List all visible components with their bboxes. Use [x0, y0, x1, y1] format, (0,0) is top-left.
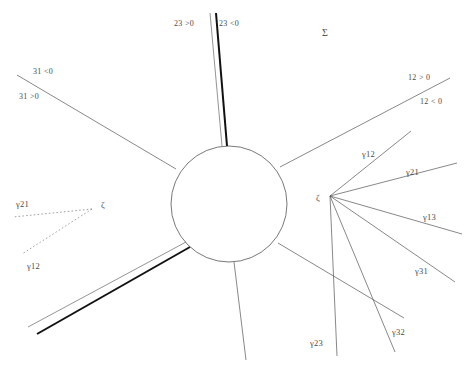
label-wall-23-neg: 23 <0 — [219, 20, 239, 28]
lines-group — [13, 13, 462, 360]
label-g23-right: γ23 — [310, 339, 323, 348]
label-zeta-right: ζ — [316, 194, 320, 203]
gamma-ray-13-right — [330, 196, 462, 234]
gamma-ray-23-right — [330, 196, 337, 356]
gamma-ray-21-left — [13, 209, 92, 217]
label-g13-right: γ13 — [423, 213, 436, 222]
label-wall-31-neg: 31 <0 — [33, 68, 53, 76]
central-circle — [171, 146, 287, 262]
label-g21-left: γ21 — [16, 200, 29, 209]
wall-ray-sw-thin — [28, 242, 186, 327]
wall-ray-sw-thick — [37, 247, 190, 334]
label-g32-right: γ32 — [392, 328, 405, 337]
gamma-ray-31-right — [330, 196, 455, 282]
gamma-ray-12-left — [22, 209, 92, 254]
label-g21-right: γ21 — [406, 168, 419, 177]
label-wall-12-pos: 12 > 0 — [408, 74, 430, 82]
diagram-svg — [0, 0, 465, 369]
label-wall-31-pos: 31 >0 — [19, 93, 39, 101]
wall-ray-south — [234, 262, 246, 360]
label-zeta-left: ζ — [101, 201, 105, 210]
gamma-ray-32-right — [330, 196, 395, 352]
gamma-ray-21-right — [330, 163, 457, 196]
gamma-ray-12-right — [330, 131, 411, 196]
label-g31-right: γ31 — [415, 267, 428, 276]
label-g12-right: γ12 — [362, 150, 375, 159]
label-wall-12-neg: 12 < 0 — [420, 98, 442, 106]
label-sigma: Σ — [322, 28, 328, 38]
wall-ray-southeast — [278, 243, 404, 318]
scattering-diagram-canvas: Σ23 >023 <031 <031 >012 > 012 < 0γ12γ21γ… — [0, 0, 465, 369]
label-wall-23-pos: 23 >0 — [174, 20, 194, 28]
wall-ray-31 — [17, 75, 176, 169]
wall-ray-23-thin — [210, 13, 222, 146]
label-g12-left: γ12 — [27, 262, 40, 271]
wall-ray-23-thick — [216, 13, 227, 146]
